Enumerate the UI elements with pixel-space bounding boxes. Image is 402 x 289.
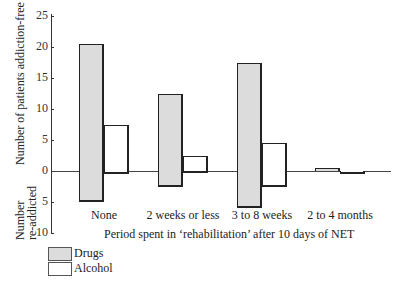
bar-drugs-re-addicted <box>237 171 262 208</box>
bar-drugs-addiction-free <box>237 63 262 172</box>
bar-alcohol-re-addicted <box>104 171 129 174</box>
x-axis-label: Period spent in ‘rehabilitation’ after 1… <box>104 227 354 242</box>
category-label: 3 to 8 weeks <box>232 208 292 223</box>
y-tick-mark <box>51 171 54 172</box>
bar-alcohol-addiction-free <box>262 143 287 171</box>
legend-label-drugs: Drugs <box>74 246 103 261</box>
y-tick-mark <box>51 202 54 203</box>
y-tick-label: 20 <box>26 39 48 54</box>
y-tick-mark <box>51 233 54 234</box>
y-tick-label: 15 <box>26 70 48 85</box>
legend-swatch-drugs <box>48 247 72 261</box>
bar-chart: 2520151050510 Number of patients addicti… <box>0 0 402 289</box>
category-label: 2 weeks or less <box>147 208 220 223</box>
y-tick-label: 10 <box>26 101 48 116</box>
y-tick-label: 25 <box>26 8 48 23</box>
y-tick-label: 5 <box>26 132 48 147</box>
y-tick-mark <box>51 47 54 48</box>
y-axis-label-re-addicted: Number re-addicted <box>14 186 38 240</box>
y-tick-label: 0 <box>26 163 48 178</box>
y-axis-label-addiction-free: Number of patients addiction-free <box>13 2 28 165</box>
legend-label-alcohol: Alcohol <box>74 261 113 276</box>
y-axis-label-line2: re-addicted <box>26 186 38 240</box>
y-tick-mark <box>51 78 54 79</box>
category-label: 2 to 4 months <box>307 208 373 223</box>
bar-drugs-addiction-free <box>315 168 340 171</box>
y-tick-mark <box>51 16 54 17</box>
y-tick-mark <box>51 109 54 110</box>
bar-drugs-re-addicted <box>79 171 104 202</box>
category-label: None <box>91 208 117 223</box>
bar-drugs-addiction-free <box>158 94 183 172</box>
legend-swatch-alcohol <box>48 262 72 276</box>
bar-alcohol-re-addicted <box>262 171 287 187</box>
bar-alcohol-addiction-free <box>104 125 129 172</box>
y-tick-mark <box>51 140 54 141</box>
bar-alcohol-re-addicted <box>340 171 365 174</box>
bar-drugs-re-addicted <box>158 171 183 187</box>
legend-item-drugs: Drugs <box>48 246 103 261</box>
bar-drugs-addiction-free <box>79 44 104 171</box>
legend-item-alcohol: Alcohol <box>48 261 113 276</box>
bar-alcohol-addiction-free <box>183 156 208 172</box>
bar-alcohol-re-addicted <box>183 171 208 173</box>
